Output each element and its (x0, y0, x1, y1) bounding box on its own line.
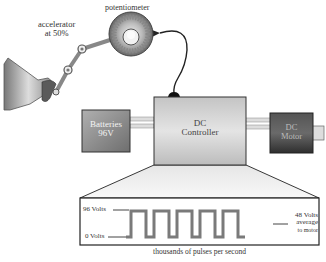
signal-wire (160, 31, 187, 94)
motor-label: DC Motor (270, 123, 313, 141)
battery-cables (130, 117, 154, 128)
accelerator-label-line2: at 50% (38, 29, 75, 38)
average-voltage-label: 48 Volts average to motor (282, 212, 318, 233)
motor-shaft (312, 126, 324, 140)
average-label-line2: average (282, 219, 318, 226)
accelerator-linkage (53, 40, 110, 95)
average-label-line3: to motor (282, 227, 318, 233)
potentiometer-icon (109, 12, 160, 56)
waveform-caption: thousands of pulses per second (80, 248, 319, 256)
controller-label: DC Controller (154, 119, 246, 138)
wire-connector (168, 92, 180, 97)
motor-label-line2: Motor (270, 132, 313, 141)
batteries-label-line2: 96V (82, 129, 130, 138)
potentiometer-label: potentiometer (105, 4, 149, 12)
controller-label-line2: Controller (154, 128, 246, 137)
motor-cables (245, 118, 271, 129)
accelerator-label: accelerator at 50% (38, 20, 75, 38)
high-voltage-label: 96 Volts (83, 206, 106, 213)
batteries-label: Batteries 96V (82, 120, 130, 139)
foot-icon (4, 58, 56, 110)
low-voltage-label: 0 Volts (85, 233, 104, 240)
zoom-projection (80, 165, 319, 198)
